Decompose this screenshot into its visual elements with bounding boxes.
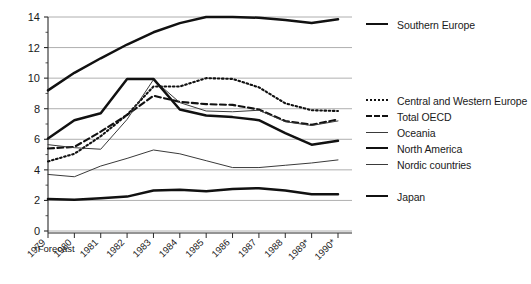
legend-label: North America [397,143,462,155]
legend-label: Southern Europe [397,19,475,31]
forecast-footnote: *Forecast [34,243,75,254]
chart-container: 02468101214 1979198019811982198319841985… [0,0,531,284]
legend-label: Japan [397,191,425,203]
series-line [48,17,338,90]
legend-label: Oceania [397,127,435,139]
x-axis [48,233,352,238]
series-line [48,79,338,145]
legend-line-swatch-icon [366,143,388,155]
y-tick-label: 2 [34,194,40,206]
legend-entry[interactable]: Total OECD [366,110,451,123]
x-tick-label: 1983 [130,237,153,260]
legend-line-swatch-icon [366,191,388,203]
x-tick-label: 1990* [312,236,338,262]
legend-line-swatch-icon [366,111,388,123]
y-tick-label: 14 [28,11,40,23]
x-tick-label: 1989* [286,236,312,262]
y-tick-label: 12 [28,42,40,54]
legend-entry[interactable]: Oceania [366,126,435,139]
legend-label: Nordic countries [397,159,471,171]
series-line [48,188,338,199]
legend-line-swatch-icon [366,127,388,139]
x-tick-label: 1984 [157,237,180,260]
series-line [48,150,338,177]
y-axis-tick-labels: 02468101214 [28,11,40,237]
legend-entry[interactable]: Japan [366,190,425,203]
legend-entry[interactable]: North America [366,142,462,155]
y-tick-label: 0 [34,225,40,237]
x-tick-label: 1987 [236,237,259,260]
legend-label: Central and Western Europe [397,95,527,107]
chart-legend: Southern EuropeCentral and Western Europ… [366,0,531,284]
y-tick-label: 8 [34,103,40,115]
legend-line-swatch-icon [366,19,388,31]
legend-entry[interactable]: Southern Europe [366,18,475,31]
y-tick-label: 10 [28,72,40,84]
x-tick-label: 1981 [77,237,100,260]
legend-label: Total OECD [397,111,451,123]
legend-line-swatch-icon [366,95,388,107]
legend-entry[interactable]: Nordic countries [366,158,471,171]
legend-line-swatch-icon [366,159,388,171]
x-tick-label: 1985 [183,237,206,260]
x-tick-label: 1988 [262,237,285,260]
y-axis [44,17,48,233]
legend-entry[interactable]: Central and Western Europe [366,94,527,107]
y-tick-label: 6 [34,133,40,145]
series-line [48,96,338,149]
y-tick-label: 4 [34,164,40,176]
x-tick-label: 1982 [104,237,127,260]
x-tick-label: 1986 [209,237,232,260]
